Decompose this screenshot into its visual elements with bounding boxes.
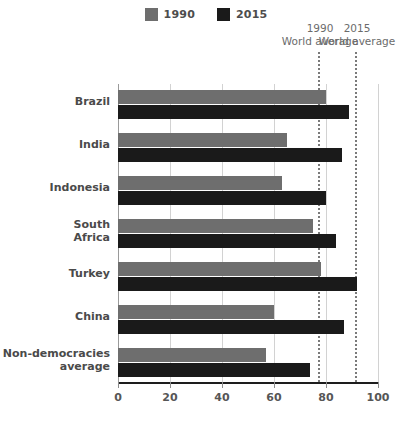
x-axis-tick-40	[222, 382, 223, 388]
category-label-india: India	[6, 139, 110, 152]
bar-group-india: India	[118, 133, 378, 162]
bar-group-indonesia: Indonesia	[118, 176, 378, 205]
bar-india-2015	[118, 148, 342, 162]
reference-year-2015: 2015	[319, 22, 395, 35]
category-label-china: China	[6, 311, 110, 324]
bar-indonesia-2015	[118, 191, 326, 205]
bar-group-south-africa: South Africa	[118, 219, 378, 248]
x-axis-tick-80	[326, 382, 327, 388]
category-label-turkey: Turkey	[6, 268, 110, 281]
x-axis-label-80: 80	[318, 391, 333, 404]
bar-group-brazil: Brazil	[118, 90, 378, 119]
bar-group-china: China	[118, 305, 378, 334]
bar-turkey-1990	[118, 262, 321, 276]
category-label-non-democracies-average: Non-democracies average	[0, 348, 110, 373]
x-axis-tick-0	[118, 382, 119, 388]
bar-group-turkey: Turkey	[118, 262, 378, 291]
legend-label-1990: 1990	[164, 8, 195, 21]
reference-caption-2015: 2015 World average	[319, 22, 395, 48]
legend-label-2015: 2015	[236, 8, 267, 21]
bar-non-democracies-average-1990	[118, 348, 266, 362]
bar-south-africa-1990	[118, 219, 313, 233]
category-label-indonesia: Indonesia	[6, 182, 110, 195]
legend-item-1990: 1990	[145, 8, 195, 21]
x-axis-label-40: 40	[214, 391, 229, 404]
bar-indonesia-1990	[118, 176, 282, 190]
square-swatch-icon	[217, 8, 230, 21]
x-axis-label-0: 0	[114, 391, 122, 404]
category-label-south-africa: South Africa	[6, 219, 110, 244]
x-axis-label-100: 100	[367, 391, 390, 404]
bar-south-africa-2015	[118, 234, 336, 248]
bar-china-2015	[118, 320, 344, 334]
bar-china-1990	[118, 305, 274, 319]
x-axis-tick-20	[170, 382, 171, 388]
bar-india-1990	[118, 133, 287, 147]
reference-subtitle-2015: World average	[319, 35, 395, 48]
x-axis-line	[118, 382, 379, 384]
gridline-100	[378, 84, 379, 382]
x-axis-label-60: 60	[266, 391, 281, 404]
x-axis-label-20: 20	[162, 391, 177, 404]
plot-area: 1990 World average 2015 World average Br…	[118, 84, 378, 382]
bar-non-democracies-average-2015	[118, 363, 310, 377]
bar-brazil-1990	[118, 90, 326, 104]
x-axis-tick-60	[274, 382, 275, 388]
chart-legend: 1990 2015	[0, 8, 412, 21]
x-axis-tick-100	[378, 382, 379, 388]
square-swatch-icon	[145, 8, 158, 21]
bar-brazil-2015	[118, 105, 349, 119]
category-label-brazil: Brazil	[6, 96, 110, 109]
legend-item-2015: 2015	[217, 8, 267, 21]
bar-turkey-2015	[118, 277, 357, 291]
bar-group-non-democracies-average: Non-democracies average	[118, 348, 378, 377]
